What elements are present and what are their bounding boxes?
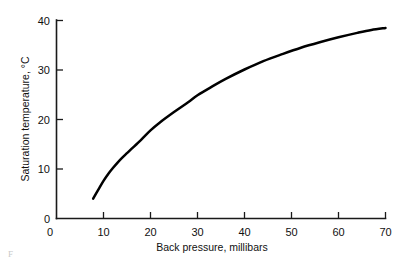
data-curve-saturation-temperature <box>93 28 385 199</box>
x-tick-marks <box>104 212 386 219</box>
y-tick-label-40: 40 <box>38 15 50 27</box>
x-tick-label-30: 30 <box>191 226 203 238</box>
x-tick-label-10: 10 <box>97 226 109 238</box>
figure-caption-stub: F <box>8 249 14 259</box>
chart-canvas: 40 30 20 10 0 0 10 20 30 40 50 60 70 Bac… <box>0 0 403 264</box>
y-tick-label-0: 0 <box>44 213 50 225</box>
x-tick-label-40: 40 <box>238 226 250 238</box>
x-tick-label-0: 0 <box>47 226 53 238</box>
x-axis-title: Back pressure, millibars <box>156 241 267 253</box>
x-tick-label-60: 60 <box>332 226 344 238</box>
y-axis-title: Saturation temperature, °C <box>19 56 31 181</box>
axes-group <box>57 20 386 219</box>
y-tick-labels: 40 30 20 10 0 <box>38 15 50 225</box>
y-tick-label-30: 30 <box>38 64 50 76</box>
x-tick-label-70: 70 <box>379 226 391 238</box>
x-tick-label-50: 50 <box>285 226 297 238</box>
x-tick-label-20: 20 <box>144 226 156 238</box>
figure-container: 40 30 20 10 0 0 10 20 30 40 50 60 70 Bac… <box>0 0 403 264</box>
y-tick-marks <box>57 21 64 170</box>
y-tick-label-10: 10 <box>38 163 50 175</box>
y-tick-label-20: 20 <box>38 114 50 126</box>
x-tick-labels: 0 10 20 30 40 50 60 70 <box>47 226 392 238</box>
